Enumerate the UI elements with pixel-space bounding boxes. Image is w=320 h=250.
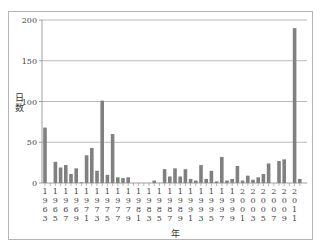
bar-1973 <box>95 171 99 183</box>
x-tick-labels: 1963196519671969197119731975197719791981… <box>42 187 297 223</box>
svg-text:9: 9 <box>209 196 214 205</box>
svg-text:9: 9 <box>74 196 79 205</box>
x-tick-label: 1985 <box>157 187 162 223</box>
svg-text:2: 2 <box>250 187 255 196</box>
svg-text:7: 7 <box>63 214 68 223</box>
bar-1968 <box>69 174 73 183</box>
svg-text:9: 9 <box>198 205 203 214</box>
svg-text:7: 7 <box>167 214 172 223</box>
bar-1994 <box>204 179 208 183</box>
svg-text:1: 1 <box>167 187 172 196</box>
bar-2002 <box>246 176 250 183</box>
gridlines <box>42 20 307 142</box>
svg-text:9: 9 <box>94 196 99 205</box>
svg-text:1: 1 <box>42 187 47 196</box>
svg-text:1: 1 <box>84 214 89 223</box>
svg-text:7: 7 <box>115 214 120 223</box>
svg-text:9: 9 <box>42 196 47 205</box>
x-tick-label: 1987 <box>167 187 172 223</box>
x-tick-label: 2001 <box>240 187 245 223</box>
bar-1975 <box>106 175 110 183</box>
svg-text:1: 1 <box>209 187 214 196</box>
bar-1991 <box>189 179 193 183</box>
x-tick-label: 1989 <box>178 187 183 223</box>
svg-text:1: 1 <box>84 187 89 196</box>
svg-text:2: 2 <box>282 187 287 196</box>
bar-1979 <box>126 177 130 183</box>
svg-text:3: 3 <box>94 214 99 223</box>
bars <box>43 28 301 183</box>
x-tick-label: 1997 <box>219 187 224 223</box>
svg-text:9: 9 <box>188 196 193 205</box>
x-tick-label: 2009 <box>282 187 287 223</box>
bar-1987 <box>168 176 172 183</box>
svg-text:1: 1 <box>94 187 99 196</box>
svg-text:9: 9 <box>105 196 110 205</box>
svg-text:5: 5 <box>105 214 110 223</box>
bar-1972 <box>90 148 94 183</box>
bar-1999 <box>230 179 234 183</box>
bar-2008 <box>277 161 281 183</box>
x-tick-label: 2007 <box>271 187 276 223</box>
x-tick-label: 1991 <box>188 187 193 223</box>
svg-text:1: 1 <box>126 187 131 196</box>
svg-text:9: 9 <box>230 205 235 214</box>
svg-text:1: 1 <box>136 214 141 223</box>
svg-text:1: 1 <box>219 187 224 196</box>
svg-text:9: 9 <box>126 214 131 223</box>
svg-text:9: 9 <box>126 196 131 205</box>
svg-text:3: 3 <box>198 214 203 223</box>
svg-text:7: 7 <box>271 214 276 223</box>
x-tick-label: 2005 <box>261 187 266 223</box>
svg-text:8: 8 <box>178 205 183 214</box>
bar-1977 <box>116 177 120 183</box>
x-tick-label: 1975 <box>105 187 110 223</box>
y-axis-label: 日数 <box>13 93 25 113</box>
svg-text:9: 9 <box>115 196 120 205</box>
bar-1995 <box>210 171 214 183</box>
svg-text:7: 7 <box>84 205 89 214</box>
bar-2006 <box>267 163 271 183</box>
x-tick-label: 1993 <box>198 187 203 223</box>
bar-chart: 050100150200 196319651967196919711973197… <box>0 0 320 250</box>
y-tick-label: 0 <box>32 179 37 188</box>
svg-text:7: 7 <box>94 205 99 214</box>
x-tick-label: 1979 <box>126 187 131 223</box>
bar-1974 <box>100 101 104 183</box>
svg-text:7: 7 <box>219 214 224 223</box>
svg-text:6: 6 <box>53 205 58 214</box>
svg-text:0: 0 <box>271 196 276 205</box>
svg-text:1: 1 <box>230 187 235 196</box>
x-tick-label: 1971 <box>84 187 89 223</box>
bar-1967 <box>64 165 68 183</box>
svg-text:9: 9 <box>230 196 235 205</box>
svg-text:1: 1 <box>292 205 297 214</box>
bar-2003 <box>251 180 255 183</box>
x-tick-label: 1973 <box>94 187 99 223</box>
bar-1993 <box>199 165 203 183</box>
svg-text:9: 9 <box>219 205 224 214</box>
svg-text:8: 8 <box>136 205 141 214</box>
svg-text:2: 2 <box>292 187 297 196</box>
svg-text:6: 6 <box>63 205 68 214</box>
svg-text:5: 5 <box>209 214 214 223</box>
x-tick-label: 1977 <box>115 187 120 223</box>
x-tick-label: 1963 <box>42 187 47 223</box>
bar-1989 <box>178 176 182 183</box>
svg-text:1: 1 <box>105 187 110 196</box>
svg-text:0: 0 <box>240 205 245 214</box>
svg-text:0: 0 <box>292 196 297 205</box>
bar-1997 <box>220 157 224 183</box>
bar-1965 <box>54 162 58 183</box>
bar-1963 <box>43 128 47 183</box>
svg-text:1: 1 <box>188 214 193 223</box>
svg-text:5: 5 <box>53 214 58 223</box>
bar-1969 <box>74 168 78 183</box>
svg-text:9: 9 <box>157 196 162 205</box>
bar-1976 <box>111 134 115 183</box>
svg-text:1: 1 <box>74 187 79 196</box>
svg-text:1: 1 <box>53 187 58 196</box>
x-axis-label: 年 <box>160 227 190 240</box>
svg-text:1: 1 <box>136 187 141 196</box>
y-tick-label: 150 <box>22 57 37 66</box>
